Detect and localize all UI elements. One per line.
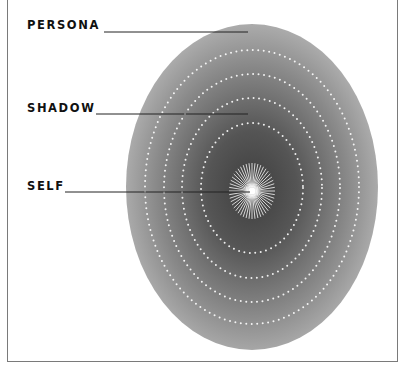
shadow-label: SHADOW [27,101,95,115]
self-label: SELF [27,179,65,193]
persona-label: PERSONA [27,18,100,32]
